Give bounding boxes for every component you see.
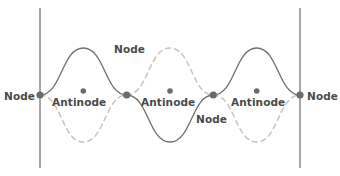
node-dot-1	[36, 91, 43, 98]
standing-wave-canvas	[0, 0, 340, 176]
node-label-top: Node	[114, 44, 145, 55]
wave-dashed-path	[40, 48, 300, 142]
node-dot-3	[210, 91, 217, 98]
antinode-dot-3	[254, 88, 260, 94]
node-dot-2	[123, 91, 130, 98]
antinode-label-2: Antinode	[141, 97, 195, 108]
antinode-label-3: Antinode	[231, 97, 285, 108]
antinode-dot-2	[167, 88, 173, 94]
antinode-label-1: Antinode	[52, 97, 106, 108]
wave-solid-path	[40, 48, 300, 142]
node-dot-4	[296, 91, 303, 98]
standing-wave-figure: Node Node Node Node Antinode Antinode An…	[0, 0, 340, 176]
antinode-dot-1	[81, 88, 87, 94]
node-label-right: Node	[307, 91, 338, 102]
node-label-left: Node	[4, 91, 35, 102]
node-label-bottom: Node	[196, 114, 227, 125]
